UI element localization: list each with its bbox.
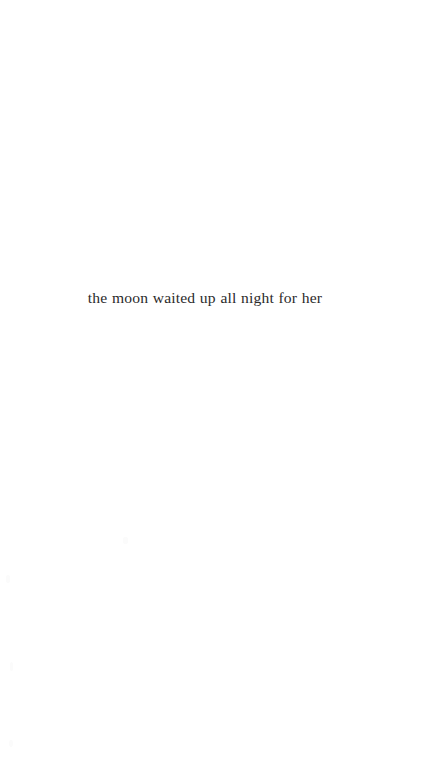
scan-artifact-speck	[123, 537, 128, 544]
scan-artifact-speck	[9, 740, 13, 747]
poem-text-block: the moon waited up all night for her	[0, 287, 438, 309]
book-page: the moon waited up all night for her	[0, 0, 438, 768]
scan-artifact-speck	[10, 662, 13, 671]
poem-line: the moon waited up all night for her	[88, 287, 322, 309]
scan-artifact-speck	[6, 575, 10, 583]
